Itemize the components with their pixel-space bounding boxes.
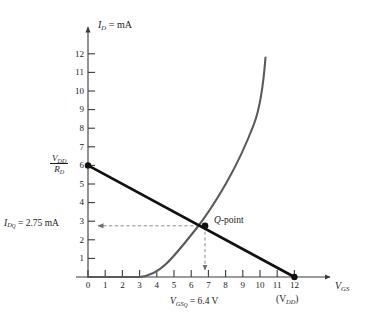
x-axis-title-sub: GS xyxy=(341,285,349,292)
x-tick-label-1: 1 xyxy=(99,281,111,290)
guide-lines xyxy=(98,226,205,270)
y-tick-label-2: 2 xyxy=(72,236,84,245)
dc-load-line xyxy=(88,165,294,277)
q-point-symbol: Q xyxy=(214,215,221,225)
vgsq-value: = 6.4 V xyxy=(187,296,218,306)
idq-subscript: DQ xyxy=(7,221,15,228)
y-tick-label-8: 8 xyxy=(72,124,84,133)
vgsq-annotation: VGSQ = 6.4 V xyxy=(170,297,218,307)
y-axis xyxy=(88,27,95,277)
y-axis-title-rest: = mA xyxy=(106,19,132,30)
x-tick-label-9: 9 xyxy=(237,281,249,290)
y-axis-ticks xyxy=(88,54,95,259)
vdd-endpoint-annotation: (VDD) xyxy=(276,295,299,305)
vdd-over-rd-label: VDD RD xyxy=(50,154,68,174)
y-tick-label-10: 10 xyxy=(72,87,84,96)
y-tick-label-5: 5 xyxy=(72,180,84,189)
y-tick-label-4: 4 xyxy=(72,198,84,207)
idq-annotation: IDQ = 2.75 mA xyxy=(4,219,59,229)
x-tick-label-6: 6 xyxy=(185,281,197,290)
x-tick-label-8: 8 xyxy=(220,281,232,290)
transfer-characteristic-curve xyxy=(140,58,266,278)
load-line-y-intercept-marker xyxy=(85,162,91,168)
y-tick-label-11: 11 xyxy=(72,68,84,77)
x-tick-label-7: 7 xyxy=(202,281,214,290)
transfer-characteristic-figure: ID = mA VGS 12 11 10 9 8 7 6 5 4 3 2 1 0… xyxy=(0,0,367,323)
y-tick-label-7: 7 xyxy=(72,143,84,152)
x-tick-label-4: 4 xyxy=(151,281,163,290)
y-tick-label-1: 1 xyxy=(72,254,84,263)
x-tick-label-2: 2 xyxy=(116,281,128,290)
y-tick-label-12: 12 xyxy=(72,50,84,59)
q-point-marker xyxy=(202,222,209,229)
y-tick-label-6: 6 xyxy=(72,161,84,170)
vgsq-subscript: GSQ xyxy=(176,300,188,307)
x-tick-label-0: 0 xyxy=(82,281,94,290)
vdd-over-rd-numerator: VDD xyxy=(50,154,68,164)
idq-value: = 2.75 mA xyxy=(16,218,59,228)
y-axis-title: ID = mA xyxy=(98,20,132,30)
x-tick-label-12: 12 xyxy=(288,281,300,290)
x-tick-label-10: 10 xyxy=(254,281,266,290)
q-point-label: Q-point xyxy=(214,216,244,226)
x-tick-label-11: 11 xyxy=(271,281,283,290)
y-tick-label-9: 9 xyxy=(72,105,84,114)
q-point-suffix: -point xyxy=(221,215,244,225)
vdd-over-rd-denominator: RD xyxy=(50,164,68,174)
x-tick-label-3: 3 xyxy=(134,281,146,290)
x-axis-title: VGS xyxy=(335,281,349,291)
y-tick-label-3: 3 xyxy=(72,217,84,226)
x-tick-label-5: 5 xyxy=(168,281,180,290)
